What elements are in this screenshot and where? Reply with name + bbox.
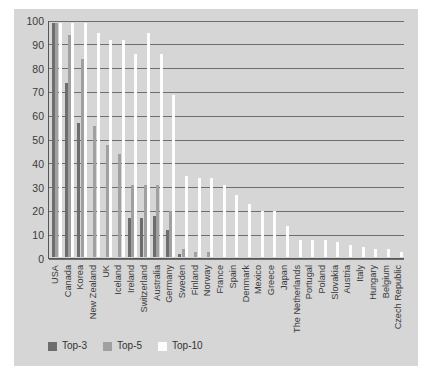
x-axis-tick-label: Portugal [306, 265, 315, 299]
legend-item-top5[interactable]: Top-5 [103, 341, 142, 351]
x-axis-tick-label: UK [102, 265, 111, 278]
bar [400, 252, 403, 257]
x-axis-label-cell: The Netherlands [291, 263, 304, 337]
bar [185, 176, 188, 257]
bar-group [278, 21, 291, 257]
bar [134, 54, 137, 256]
x-axis-tick-label: Korea [77, 265, 86, 290]
bar [147, 33, 150, 257]
x-axis-tick-label: Spain [229, 265, 238, 289]
x-axis-label-cell: Sweden [177, 263, 190, 337]
bar-group [240, 21, 253, 257]
bar [374, 249, 377, 256]
bar-group [202, 21, 215, 257]
plot-area-wrapper [48, 21, 404, 263]
x-axis-tick-label: Czech Republic [395, 265, 404, 329]
bar [122, 40, 125, 257]
x-axis-label-cell: Switzerland [139, 263, 152, 337]
x-axis-tick-label: Mexico [255, 265, 264, 294]
x-axis-label-cell: Norway [202, 263, 215, 337]
x-axis-tick-label: France [217, 265, 226, 294]
y-axis-tick-label: 50 [32, 135, 44, 146]
bar-group [51, 21, 64, 257]
x-axis-label-cell: Austria [342, 263, 355, 337]
legend-swatch-icon [103, 342, 112, 351]
bar-group [391, 21, 404, 257]
bar-group [177, 21, 190, 257]
plot-area [48, 21, 404, 259]
y-axis-tick-label: 10 [32, 230, 44, 241]
bar-group [303, 21, 316, 257]
bar [235, 195, 238, 257]
x-axis-label-cell: Greece [266, 263, 279, 337]
bar-group [379, 21, 392, 257]
x-axis-tick-label: New Zealand [89, 265, 98, 319]
bar [324, 240, 327, 257]
bar [71, 23, 74, 256]
x-axis-label-cell: Australia [151, 263, 164, 337]
x-axis-label-cell: Canada [62, 263, 75, 337]
legend-swatch-icon [48, 342, 57, 351]
bar-group [253, 21, 266, 257]
bar-group [328, 21, 341, 257]
bar [198, 178, 201, 257]
bar [362, 247, 365, 257]
x-axis-label-cell: Belgium [380, 263, 393, 337]
legend-swatch-icon [158, 342, 167, 351]
x-axis-tick-label: Slovakia [331, 265, 340, 300]
x-axis-label-cell: Mexico [253, 263, 266, 337]
x-axis-label-cell: Hungary [367, 263, 380, 337]
bar [109, 40, 112, 257]
legend-label: Top-10 [172, 341, 203, 351]
x-axis-tick-label: The Netherlands [293, 265, 302, 333]
y-axis-tick-label: 40 [32, 159, 44, 170]
x-axis-tick-label: Switzerland [140, 265, 149, 313]
x-axis-label-cell: USA [50, 263, 63, 337]
x-axis-label-cell: Korea [75, 263, 88, 337]
bar [172, 95, 175, 257]
y-axis-tick-label: 80 [32, 63, 44, 74]
x-axis-labels: USACanadaKoreaNew ZealandUKIcelandIrelan… [50, 263, 406, 337]
x-axis-label-cell: Spain [228, 263, 241, 337]
y-axis-tick-label: 100 [26, 16, 44, 27]
gridline [49, 259, 404, 260]
bar-group [227, 21, 240, 257]
bar-group [126, 21, 139, 257]
x-axis-tick-label: Hungary [369, 265, 378, 300]
legend-item-top3[interactable]: Top-3 [48, 341, 87, 351]
x-axis-tick-label: Iceland [115, 265, 124, 295]
bar-group [265, 21, 278, 257]
x-axis-tick-label: USA [51, 265, 60, 284]
bar-group [139, 21, 152, 257]
bar [286, 226, 289, 257]
x-axis-label-cell: UK [100, 263, 113, 337]
bar [387, 249, 390, 256]
x-axis-label-cell: Portugal [304, 263, 317, 337]
bar [311, 240, 314, 257]
x-axis-tick-label: Poland [318, 265, 327, 294]
chart-page: 0102030405060708090100 USACanadaKoreaNew… [0, 0, 431, 375]
bar-group [341, 21, 354, 257]
chart-legend: Top-3Top-5Top-10 [48, 341, 203, 351]
bar [349, 245, 352, 257]
bar [160, 54, 163, 256]
x-axis-label-cell: Ireland [126, 263, 139, 337]
x-axis-tick-label: Germany [166, 265, 175, 303]
x-axis-tick-label: Austria [344, 265, 353, 294]
y-axis-tick-label: 70 [32, 87, 44, 98]
x-axis-label-cell: New Zealand [88, 263, 101, 337]
bar [336, 242, 339, 256]
y-axis-tick-label: 20 [32, 206, 44, 217]
x-axis-label-cell: Finland [189, 263, 202, 337]
y-axis-tick-label: 60 [32, 111, 44, 122]
x-axis-tick-label: Belgium [382, 265, 391, 298]
x-axis-tick-label: Italy [357, 265, 366, 282]
x-axis-label-cell: France [215, 263, 228, 337]
x-axis-label-cell: Japan [278, 263, 291, 337]
y-axis: 0102030405060708090100 [14, 21, 44, 259]
legend-item-top10[interactable]: Top-10 [158, 341, 203, 351]
x-axis-tick-label: Australia [153, 265, 162, 301]
bar-group [316, 21, 329, 257]
bar-group [354, 21, 367, 257]
bar-group [101, 21, 114, 257]
